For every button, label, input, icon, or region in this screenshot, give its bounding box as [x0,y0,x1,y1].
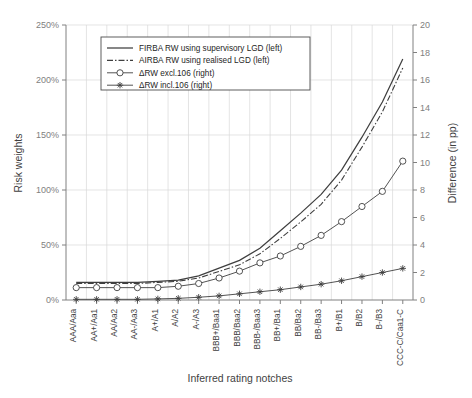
y2-tick-label: 16 [420,75,430,85]
x-tick-label: A+/A1 [151,309,160,332]
data-point-marker [318,232,324,238]
data-point-marker [257,260,263,266]
data-point-marker [114,285,120,291]
data-point-marker [338,219,344,225]
x-tick-label: BB/Ba2 [294,309,303,337]
legend-label: AIRBA RW using realised LGD (left) [139,56,270,65]
x-tick-label: BB+/Ba1 [273,309,282,342]
x-tick-label: CCC-C/Caa1-C [396,309,405,366]
y2-tick-label: 14 [420,103,430,113]
x-axis-title: Inferred rating notches [187,372,292,384]
data-point-marker [73,285,79,291]
y-tick-label: 250% [36,20,59,30]
legend-marker [117,70,123,76]
left-axis-ticks: 0%50%100%150%200%250% [36,20,66,305]
data-point-marker [155,285,161,291]
x-tick-label: BBB+/Baa1 [212,309,221,352]
chart-legend: FIRBA RW using supervisory LGD (left)AIR… [101,37,310,90]
x-tick-label: B/B2 [355,309,364,327]
y2-tick-label: 12 [420,130,430,140]
risk-weight-line-chart: 0%50%100%150%200%250% 02468101214161820 … [0,0,472,398]
x-tick-label: A-/A3 [192,309,201,330]
y2-tick-label: 2 [420,268,425,278]
y2-tick-label: 0 [420,295,425,305]
data-point-marker [236,268,242,274]
y-tick-label: 100% [36,185,59,195]
data-point-marker [175,283,181,289]
data-point-marker [175,295,181,301]
y2-tick-label: 18 [420,48,430,58]
x-tick-label: AA/Aa2 [110,309,119,337]
x-tick-label: A/A2 [171,309,180,327]
x-tick-label: B-/B3 [375,309,384,330]
legend-marker [117,82,123,88]
y2-tick-label: 20 [420,20,430,30]
data-point-marker [134,285,140,291]
y-tick-label: 150% [36,130,59,140]
y2-tick-label: 10 [420,158,430,168]
x-tick-label: B+/B1 [335,309,344,332]
data-point-marker [400,158,406,164]
legend-label: ΔRW excl.106 (right) [139,69,215,78]
y2-tick-label: 4 [420,240,425,250]
y2-tick-label: 6 [420,213,425,223]
data-point-marker [379,188,385,194]
data-point-marker [196,280,202,286]
y-tick-label: 200% [36,75,59,85]
x-tick-label: BBB/Baa2 [233,309,242,347]
chart-figure: 0%50%100%150%200%250% 02468101214161820 … [0,0,472,398]
x-tick-label: BB-/Ba3 [314,309,323,340]
x-tick-label: BBB-/Baa3 [253,309,262,350]
y2-tick-label: 8 [420,185,425,195]
data-point-marker [216,275,222,281]
y-axis-title: Risk weights [12,134,24,193]
x-tick-label: AA+/Aa1 [90,309,99,342]
legend-label: FIRBA RW using supervisory LGD (left) [139,44,282,53]
x-axis-ticks [76,300,403,304]
data-point-marker [298,243,304,249]
x-tick-label: AAA/Aaa [69,309,78,343]
x-tick-label: AA-/Aa3 [130,309,139,340]
x-axis-tick-labels: AAA/AaaAA+/Aa1AA/Aa2AA-/Aa3A+/A1A/A2A-/A… [69,309,405,366]
legend-label: ΔRW incl.106 (right) [139,81,212,90]
data-point-marker [94,285,100,291]
data-point-marker [155,296,161,302]
secondary-y-axis-title: Difference (in pp) [446,123,458,203]
y-tick-label: 0% [46,295,59,305]
data-point-marker [359,203,365,209]
right-axis-ticks: 02468101214161820 [413,20,430,305]
data-point-marker [277,253,283,259]
y-tick-label: 50% [41,240,59,250]
